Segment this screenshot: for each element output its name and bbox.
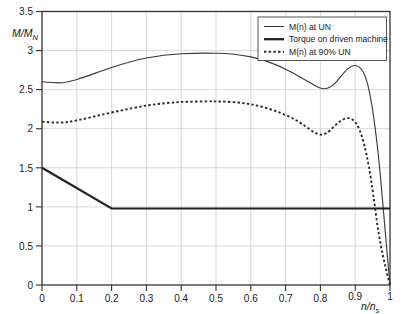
legend-label-load-torque: Torque on driven machine [289, 34, 388, 44]
x-tick-label: 0.4 [174, 293, 188, 304]
legend: M(n) at UN Torque on driven machine M(n)… [258, 17, 388, 61]
y-tick-label: 3 [27, 45, 33, 56]
legend-label-mn-at-90pct: M(n) at 90% UN [289, 47, 351, 57]
x-tick-label: 0.5 [209, 293, 223, 304]
chart-container: 3.5 3 2.5 2 1.5 1 0.5 0 0 0.1 0.2 0.3 0.… [0, 0, 413, 314]
x-tick-label: 0.8 [313, 293, 327, 304]
y-tick-label: 2.5 [19, 84, 33, 95]
x-tick-label: 0.3 [139, 293, 153, 304]
x-tick-label: 0.7 [279, 293, 293, 304]
x-tick-label: 1 [387, 291, 393, 302]
x-tick-label: 0.6 [244, 293, 258, 304]
x-tick-label: 0.2 [105, 293, 119, 304]
x-tick-label: 0.1 [70, 293, 84, 304]
y-tick-label: 0.5 [19, 241, 33, 252]
y-tick-label: 2 [27, 123, 33, 134]
y-tick-label: 1.5 [19, 163, 33, 174]
y-tick-label: 1 [27, 202, 33, 213]
x-tick-label: 0 [39, 293, 45, 304]
y-tick-label: 0 [27, 280, 33, 291]
y-tick-label: 3.5 [19, 6, 33, 17]
legend-label-mn-at-un: M(n) at UN [289, 22, 331, 32]
motor-torque-speed-chart: 3.5 3 2.5 2 1.5 1 0.5 0 0 0.1 0.2 0.3 0.… [0, 0, 413, 314]
